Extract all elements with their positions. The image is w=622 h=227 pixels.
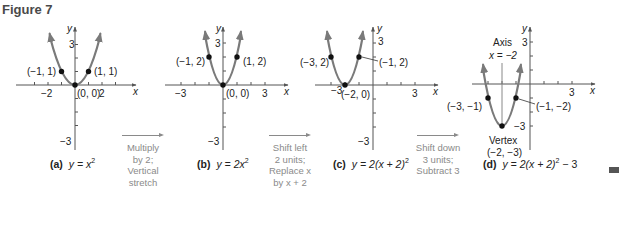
step-line: Replace x: [265, 165, 315, 177]
point-icon: [234, 54, 239, 59]
caption-exponent: 2: [245, 157, 249, 164]
x-tick-label: −3: [175, 88, 187, 99]
y-tick-label: −3: [358, 136, 370, 147]
point-icon: [342, 82, 347, 87]
caption-equation: y = 2x: [216, 158, 244, 170]
step-multiply-by-2: Multiply by 2; Vertical stretch: [118, 132, 168, 188]
step-line: Shift down: [413, 142, 463, 154]
step-line: by x + 2: [265, 177, 315, 189]
point-icon: [72, 82, 77, 87]
leader-line: [362, 57, 378, 61]
panel-d-graph: y x 3 −3 3 Axis x = −2 (−3, −1) (−1, −2)…: [447, 23, 596, 158]
step-line: 2 units;: [265, 154, 315, 166]
x-tick-label: 3: [569, 87, 575, 98]
parabola-curve: [327, 35, 363, 85]
step-line: stretch: [118, 177, 168, 189]
point-icon: [59, 69, 64, 74]
right-arrow-icon: [417, 132, 459, 140]
point-label: (0, 0): [226, 88, 249, 99]
point-icon: [206, 54, 211, 59]
step-line: Shift left: [265, 142, 315, 154]
caption-tag: (b): [197, 158, 210, 170]
panel-a-graph: y x 3 −3 −2 2 (−1, 1) (1, 1) (0, 0): [16, 23, 139, 150]
caption-equation: y = x: [69, 158, 91, 170]
leader-line: [519, 99, 535, 104]
vertex-point-icon: [499, 123, 504, 128]
point-icon: [86, 69, 91, 74]
y-tick-label: 3: [378, 36, 384, 47]
caption-exponent: 2: [405, 157, 409, 164]
y-tick-label: 3: [69, 39, 75, 50]
y-tick-label: 3: [522, 37, 528, 48]
point-label: (−1, 1): [27, 66, 56, 77]
x-tick-label: 3: [262, 88, 268, 99]
y-axis-label: y: [521, 23, 528, 34]
step-line: Subtract 3: [413, 165, 463, 177]
axis-annotation-label: Axis: [493, 37, 512, 48]
y-axis-label: y: [376, 23, 383, 34]
caption-tag: (d): [483, 158, 496, 170]
point-icon: [513, 95, 518, 100]
caption-tag: (a): [50, 158, 63, 170]
point-label: (−1, −2): [536, 101, 571, 112]
panel-b-graph: y x 3 −3 −3 3 (−1, 2) (1, 2) (0, 0): [165, 23, 290, 150]
caption-c: (c)y = 2(x + 2)2: [333, 157, 409, 170]
y-tick-label: −3: [208, 136, 220, 147]
step-line: Vertical: [118, 165, 168, 177]
caption-equation: y = 2(x + 2): [352, 158, 405, 170]
step-shift-left: Shift left 2 units; Replace x by x + 2: [265, 132, 315, 188]
step-line: 3 units;: [413, 154, 463, 166]
point-label: (−1, 2): [176, 56, 205, 67]
y-axis-label: y: [66, 23, 73, 34]
point-label: (0, 0): [77, 88, 100, 99]
point-icon: [220, 82, 225, 87]
vertex-label: Vertex: [489, 135, 517, 146]
caption-tag: (c): [333, 158, 346, 170]
axis-annotation-equation: x = −2: [488, 50, 517, 61]
step-line: Multiply: [118, 142, 168, 154]
caption-a: (a)y = x2: [50, 157, 95, 170]
section-end-marker: [609, 167, 619, 173]
y-tick-label: 3: [215, 38, 221, 49]
caption-b: (b)y = 2x2: [197, 157, 249, 170]
right-arrow-icon: [269, 132, 311, 140]
point-icon: [356, 54, 361, 59]
step-line: by 2;: [118, 154, 168, 166]
point-label: (−3, −1): [447, 101, 482, 112]
caption-equation: y = 2(x + 2): [502, 158, 555, 170]
x-tick-label: 3: [412, 88, 418, 99]
point-label: (1, 1): [94, 66, 117, 77]
point-icon: [485, 95, 490, 100]
caption-d: (d)y = 2(x + 2)2 − 3: [483, 157, 577, 170]
caption-equation-suffix: − 3: [559, 158, 577, 170]
point-label: (−3, 2): [300, 57, 329, 68]
x-axis-label: x: [132, 86, 139, 97]
step-shift-down: Shift down 3 units; Subtract 3: [413, 132, 463, 177]
y-tick-label: −3: [60, 136, 72, 147]
y-tick-label: −3: [514, 121, 526, 132]
panel-c-graph: y x 3 −3 −3 3 (−3, 2) (−1, 2) (−2, 0): [300, 23, 439, 150]
y-axis-label: y: [215, 23, 222, 34]
x-axis-label: x: [589, 85, 596, 96]
caption-exponent: 2: [91, 157, 95, 164]
x-axis-label: x: [432, 86, 439, 97]
x-tick-label: −2: [41, 88, 53, 99]
right-arrow-icon: [122, 132, 164, 140]
point-label: (−1, 2): [379, 57, 408, 68]
x-axis-label: x: [283, 86, 290, 97]
parabola-plots: y x 3 −3 −2 2 (−1, 1) (1, 1) (0, 0) y x …: [0, 0, 622, 227]
point-label: (1, 2): [243, 56, 266, 67]
point-label: (−2, 0): [341, 89, 370, 100]
